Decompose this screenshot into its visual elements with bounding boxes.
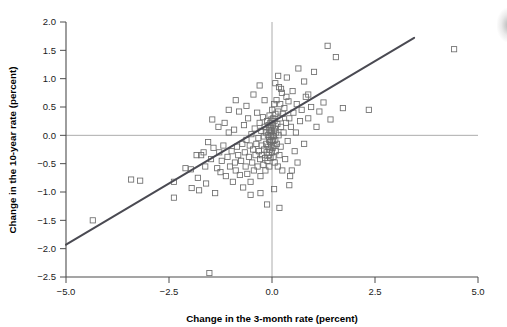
scatter-point (129, 177, 134, 182)
scatter-point (328, 117, 333, 122)
scatter-point (256, 136, 261, 141)
scatter-point (239, 158, 244, 163)
scatter-point (251, 92, 256, 97)
scatter-point (221, 143, 226, 148)
scatter-point (264, 202, 269, 207)
scatter-point (207, 270, 212, 275)
scatter-point (296, 66, 301, 71)
scatter-point (183, 166, 188, 171)
scatter-point (290, 89, 295, 94)
scatter-point (248, 179, 253, 184)
scatter-point (210, 117, 215, 122)
scatter-point (267, 164, 272, 169)
scatter-point (302, 141, 307, 146)
scatter-point (250, 160, 255, 165)
scatter-point (257, 83, 262, 88)
scatter-point (247, 143, 252, 148)
y-axis-tick-label: 2.0 (43, 16, 56, 27)
scatter-point (236, 153, 241, 158)
scatter-point (216, 124, 221, 129)
scatter-point (306, 116, 311, 121)
scatter-point (219, 158, 224, 163)
scatter-point (325, 43, 330, 48)
y-axis-title: Change in the 10-year rate (percent) (7, 66, 18, 233)
x-axis-tick-label: −5.0 (57, 286, 76, 297)
scatter-point (245, 171, 250, 176)
scatter-point (257, 120, 262, 125)
scatter-point (196, 188, 201, 193)
scatter-point (273, 81, 278, 86)
scatter-point (287, 183, 292, 188)
scatter-point (276, 73, 281, 78)
scatter-point (246, 116, 251, 121)
scatter-point (218, 170, 223, 175)
scatter-point (171, 195, 176, 200)
scatter-point (241, 123, 246, 128)
x-axis-tick-label: 0.0 (265, 286, 278, 297)
chart-canvas: −2.5−2.0−1.5−1.0−0.50.00.51.01.52.0 −5.0… (0, 0, 507, 327)
regression-line (66, 38, 414, 245)
scatter-point (299, 107, 304, 112)
scatter-point (366, 107, 371, 112)
y-axis-ticks: −2.5−2.0−1.5−1.0−0.50.00.51.01.52.0 (37, 16, 66, 282)
scatter-point (138, 178, 143, 183)
scatter-markers (90, 43, 457, 275)
scatter-point (250, 147, 255, 152)
scatter-point (311, 69, 316, 74)
scatter-point (276, 85, 281, 90)
scatter-point (258, 191, 263, 196)
scatter-point (211, 145, 216, 150)
scatter-point (251, 168, 256, 173)
scatter-point (317, 109, 322, 114)
scatter-point (241, 185, 246, 190)
scatter-point (262, 98, 267, 103)
scatter-point (277, 205, 282, 210)
x-axis-tick-label: 2.5 (368, 286, 381, 297)
y-axis-tick-label: −0.5 (37, 158, 56, 169)
y-axis-tick-label: −2.0 (37, 243, 56, 254)
scatter-point (255, 164, 260, 169)
y-axis-tick-label: −1.0 (37, 186, 56, 197)
y-axis-tick-label: 0.5 (43, 101, 56, 112)
scatter-point (283, 157, 288, 162)
scatter-point (333, 55, 338, 60)
scatter-point (222, 120, 227, 125)
y-axis-tick-label: 1.0 (43, 73, 56, 84)
x-axis-title: Change in the 3-month rate (percent) (186, 313, 357, 324)
scatter-point (302, 79, 307, 84)
scatter-point (230, 179, 235, 184)
scatter-point (288, 174, 293, 179)
scatter-point (225, 154, 230, 159)
scatter-point (233, 98, 238, 103)
y-axis-tick-label: −1.5 (37, 215, 56, 226)
scatter-point (321, 100, 326, 105)
y-axis-tick-label: 1.5 (43, 45, 56, 56)
scatter-point (288, 124, 293, 129)
scatter-point (90, 218, 95, 223)
scatter-point (314, 124, 319, 129)
scatter-point (243, 164, 248, 169)
scatter-point (203, 181, 208, 186)
scatter-point (256, 149, 261, 154)
scatter-point (223, 174, 228, 179)
scatter-point (213, 191, 218, 196)
scatter-point (452, 47, 457, 52)
scatter-point (244, 103, 249, 108)
scatter-point (281, 130, 286, 135)
scatter-point (236, 109, 241, 114)
x-axis-tick-label: −2.5 (160, 286, 179, 297)
scatter-point (203, 164, 208, 169)
scatter-point (248, 192, 253, 197)
scatter-point (229, 149, 234, 154)
scatter-point (227, 164, 232, 169)
scatter-point (295, 160, 300, 165)
scatter-point (284, 75, 289, 80)
scatter-point (258, 174, 263, 179)
scatter-point (195, 175, 200, 180)
scatter-point (285, 138, 290, 143)
scatter-point (232, 160, 237, 165)
scatter-point (189, 185, 194, 190)
scatter-point (292, 149, 297, 154)
scatter-point (232, 127, 237, 132)
scatter-point (255, 110, 260, 115)
